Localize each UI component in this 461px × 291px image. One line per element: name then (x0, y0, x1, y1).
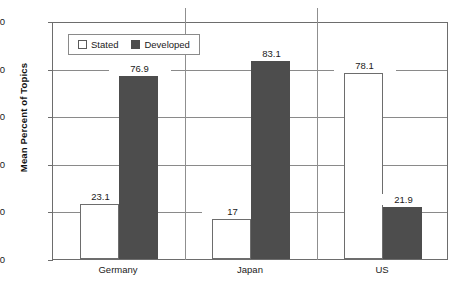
y-tick-label-20: 20 (0, 206, 5, 217)
y-axis-title: Mean Percent of Topics (18, 33, 29, 203)
y-tick-mark-100 (48, 22, 53, 23)
legend-item-stated: Stated (78, 39, 118, 50)
plot-area: 23.176.91783.178.121.9 (52, 22, 448, 260)
bar-japan-stated (212, 219, 251, 259)
gridline-60 (53, 117, 447, 118)
filled-square-icon (131, 40, 140, 49)
bar-value-label-germany-developed: 76.9 (109, 63, 171, 74)
bar-value-label-japan-developed: 83.1 (241, 48, 303, 59)
legend-item-developed: Developed (131, 39, 189, 50)
y-tick-label-60: 60 (0, 111, 5, 122)
legend-label-developed: Developed (144, 39, 189, 50)
bar-germany-stated (80, 204, 119, 259)
legend-label-stated: Stated (91, 39, 118, 50)
y-tick-label-80: 80 (0, 64, 5, 75)
x-category-label-us: US (322, 264, 442, 275)
open-square-icon (78, 40, 87, 49)
y-tick-mark-20 (48, 212, 53, 213)
x-category-label-germany: Germany (58, 264, 178, 275)
y-tick-label-0: 0 (0, 254, 5, 265)
bar-germany-developed (119, 76, 158, 259)
bar-value-label-us-stated: 78.1 (334, 60, 396, 71)
gridline-40 (53, 165, 447, 166)
chart-legend: Stated Developed (68, 34, 200, 55)
bar-us-developed (383, 207, 422, 259)
bar-value-label-us-developed: 21.9 (373, 194, 435, 205)
gridline-100 (53, 22, 447, 23)
bar-japan-developed (251, 61, 290, 259)
y-tick-mark-0 (48, 260, 53, 261)
y-tick-mark-80 (48, 70, 53, 71)
bar-us-stated (344, 73, 383, 259)
group-separator-2 (317, 8, 318, 260)
y-tick-label-40: 40 (0, 159, 5, 170)
bar-chart: Mean Percent of Topics 0 20 40 60 80 100… (0, 0, 461, 291)
y-tick-mark-60 (48, 117, 53, 118)
x-category-label-japan: Japan (190, 264, 310, 275)
y-tick-mark-40 (48, 165, 53, 166)
y-tick-label-100: 100 (0, 16, 5, 27)
